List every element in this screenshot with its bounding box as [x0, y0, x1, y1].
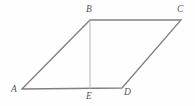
vertex-label-b: B [86, 4, 92, 14]
figure-background [0, 0, 195, 106]
vertex-label-a: A [11, 84, 17, 94]
vertex-label-d: D [124, 87, 131, 97]
parallelogram-diagram [0, 0, 195, 106]
geometry-figure: A B C D E [0, 0, 195, 106]
vertex-label-e: E [86, 91, 92, 101]
vertex-label-c: C [177, 4, 183, 14]
